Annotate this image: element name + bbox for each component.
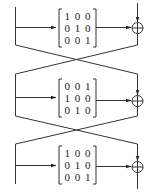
diagram-canvas: 1 0 0 0 1 0 0 0 1 0 0 1 1 0 0 0 1 0 1 0 … (0, 0, 156, 192)
matrix-stage-1: 1 0 0 0 1 0 0 0 1 (61, 10, 95, 46)
matrix-row: 0 1 0 (61, 22, 95, 34)
matrix-row: 0 0 1 (61, 34, 95, 46)
matrix-stage-3: 1 0 0 0 1 0 0 0 1 (61, 147, 95, 183)
matrix-row: 1 0 0 (61, 147, 95, 159)
matrix-stage-2: 0 0 1 1 0 0 0 1 0 (61, 80, 95, 116)
matrix-row: 0 0 1 (61, 171, 95, 183)
matrix-row: 0 0 1 (61, 80, 95, 92)
matrix-row: 1 0 0 (61, 92, 95, 104)
matrix-row: 0 1 0 (61, 104, 95, 116)
matrix-row: 0 1 0 (61, 159, 95, 171)
matrix-row: 1 0 0 (61, 10, 95, 22)
